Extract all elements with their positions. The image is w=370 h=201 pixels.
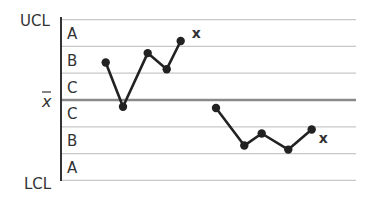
zone-label-lower-A: A <box>67 159 78 177</box>
control-chart: UCLxLCL ABCCBA xx <box>0 0 370 201</box>
data-series: xx <box>102 25 328 154</box>
data-point <box>240 141 248 149</box>
zone-label-upper-C: C <box>67 79 77 97</box>
ucl-label: UCL <box>20 12 50 30</box>
center-label: x <box>41 92 52 111</box>
data-point <box>258 129 266 137</box>
lcl-label: LCL <box>24 175 52 193</box>
run-end-marker: x <box>192 25 201 41</box>
axis-labels: UCLxLCL <box>20 12 52 194</box>
zone-label-upper-A: A <box>67 25 78 43</box>
zone-gridlines <box>61 20 356 181</box>
data-point <box>212 104 220 112</box>
data-point <box>284 145 292 153</box>
data-point <box>163 65 171 73</box>
data-point <box>102 58 110 66</box>
data-point <box>119 103 127 111</box>
zone-label-lower-C: C <box>67 105 77 123</box>
data-point <box>177 37 185 45</box>
zone-label-lower-B: B <box>67 132 77 150</box>
zone-label-upper-B: B <box>67 52 77 70</box>
data-point <box>308 125 316 133</box>
series-line <box>106 41 181 107</box>
series-line <box>216 108 312 150</box>
data-point <box>144 49 152 57</box>
run-end-marker: x <box>319 130 328 146</box>
